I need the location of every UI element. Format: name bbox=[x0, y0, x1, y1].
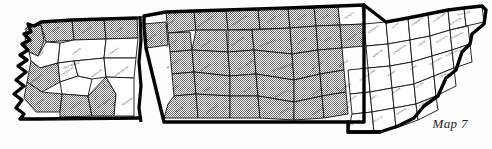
map-figure: LAKEOBIONWEAKLEYHENRYDYERGIBSONCARROLLLA… bbox=[0, 0, 492, 149]
county-warren: WARREN bbox=[320, 70, 346, 96]
county-bledsoe: BLEDSOE bbox=[350, 92, 372, 114]
grand-division-line-west bbox=[139, 16, 141, 122]
county-grundy: GRUNDY bbox=[322, 92, 348, 118]
county-henderson: HENDERSON bbox=[104, 58, 136, 78]
county-anderson: ANDERSON bbox=[388, 40, 412, 66]
tennessee-county-map: LAKEOBIONWEAKLEYHENRYDYERGIBSONCARROLLLA… bbox=[0, 0, 492, 149]
county-knox: KNOX bbox=[390, 62, 414, 88]
county-morgan: MORGAN bbox=[366, 44, 390, 68]
county-perry: PERRY bbox=[172, 72, 196, 96]
county-lewis: LEWIS bbox=[194, 72, 230, 96]
map-caption: Map 7 bbox=[432, 116, 468, 132]
county-giles: GILES bbox=[230, 96, 260, 118]
